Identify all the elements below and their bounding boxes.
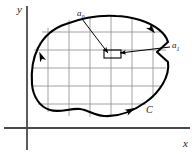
- contour-arrow-left: [36, 51, 46, 63]
- a0-leader-line: [82, 19, 108, 53]
- y-axis-label: y: [16, 3, 22, 15]
- marker-a0-group: a 0: [77, 8, 108, 53]
- contour-direction-arrows: [36, 24, 157, 116]
- figure-container: x y a 0 a 1 C: [0, 0, 194, 154]
- contour-curve-c: [32, 16, 169, 116]
- marker-a1-group: a 1: [120, 40, 180, 53]
- x-axis-label: x: [182, 137, 188, 149]
- contour-label-c: C: [146, 104, 153, 115]
- a1-subscript: 1: [177, 46, 180, 52]
- contour-arrow-bottom-right: [125, 105, 137, 115]
- a0-subscript: 0: [82, 14, 85, 20]
- contour-integral-figure: x y a 0 a 1 C: [0, 0, 194, 154]
